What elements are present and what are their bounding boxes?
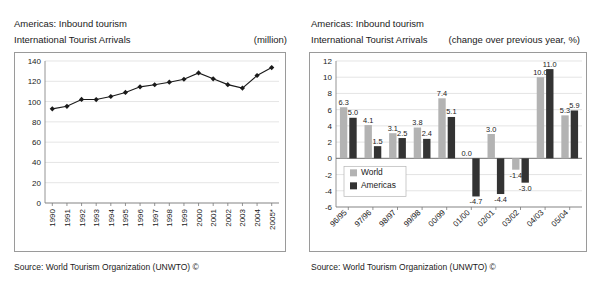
x-axis-tick-label: 2002 (224, 208, 233, 226)
bar-americas (448, 117, 455, 158)
legend-label-world: World (361, 167, 383, 177)
x-axis-tick-label: 1999 (180, 208, 189, 226)
bar-value-label-americas: 11.0 (543, 60, 557, 69)
legend-swatch-world (350, 169, 357, 176)
x-axis-tick-label: 1994 (107, 208, 116, 226)
x-axis-tick-label: 2003 (238, 208, 247, 226)
x-axis-tick-label: 02/01 (476, 208, 497, 229)
left-chart-source: Source: World Tourism Organization (UNWT… (14, 262, 199, 272)
right-chart-unit: (change over previous year, %) (449, 34, 580, 45)
bar-americas (497, 158, 504, 194)
x-axis-tick-label: 04/03 (525, 208, 546, 229)
bar-world (365, 125, 372, 158)
bar-world (488, 134, 495, 158)
right-chart-subtitle: International Tourist Arrivals (311, 34, 428, 45)
x-axis-tick-label: 03/02 (500, 208, 521, 229)
bar-americas (522, 158, 529, 182)
right-chart-source: Source: World Tourism Organization (UNWT… (311, 262, 496, 272)
y-axis-tick-label: 40 (32, 158, 41, 167)
data-point-marker (137, 84, 142, 89)
data-point-marker (225, 82, 230, 87)
bar-world (537, 77, 544, 158)
bar-value-label-world: 0.0 (461, 149, 471, 158)
x-axis-tick-label: 1990 (48, 208, 57, 226)
data-point-marker (152, 82, 157, 87)
bar-world (340, 107, 347, 158)
bar-value-label-world: 10.0 (533, 68, 547, 77)
bar-value-label-americas: -4.4 (494, 195, 507, 204)
y-axis-tick-label: -2 (325, 171, 333, 180)
bar-world (561, 115, 568, 158)
bar-americas (349, 118, 356, 159)
x-axis-tick-label: 00/99 (427, 208, 448, 229)
bar-value-label-americas: -3.0 (519, 184, 532, 193)
bar-americas (399, 138, 406, 158)
y-axis-tick-label: 12 (323, 57, 332, 66)
bar-value-label-americas: 5.0 (348, 108, 358, 117)
x-axis-tick-label: 98/97 (377, 208, 398, 229)
x-axis-tick-label: 1992 (78, 208, 87, 226)
right-chart-title: Americas: Inbound tourism (311, 18, 584, 29)
bar-chart-svg: -6-4-20246810126.35.096/954.11.597/963.1… (310, 53, 586, 251)
x-axis-tick-label: 97/96 (353, 208, 374, 229)
x-axis-tick-label: 2005* (268, 209, 277, 230)
data-point-marker (211, 76, 216, 81)
data-series-line (52, 68, 271, 109)
bar-value-label-world: 4.1 (363, 116, 373, 125)
y-axis-tick-label: 80 (32, 118, 41, 127)
left-chart-panel: Americas: Inbound tourism International … (0, 0, 297, 287)
bar-value-label-americas: 2.4 (422, 129, 432, 138)
data-point-marker (64, 104, 69, 109)
bar-americas (546, 69, 553, 158)
left-chart-plot-area: 0204060801001201401990199119921993199419… (14, 52, 286, 252)
y-axis-tick-label: 10 (323, 73, 332, 82)
y-axis-tick-label: 140 (28, 57, 42, 66)
bar-value-label-world: -1.4 (509, 171, 522, 180)
bar-value-label-world: 3.0 (486, 125, 496, 134)
y-axis-tick-label: -4 (325, 187, 333, 196)
y-axis-tick-label: 60 (32, 138, 41, 147)
y-axis-tick-label: 2 (328, 138, 333, 147)
left-chart-subtitle: International Tourist Arrivals (14, 34, 131, 45)
x-axis-tick-label: 1998 (165, 208, 174, 226)
right-chart-plot-area: -6-4-20246810126.35.096/954.11.597/963.1… (309, 52, 587, 252)
x-axis-tick-label: 1991 (63, 208, 72, 226)
bar-value-label-world: 6.3 (338, 98, 348, 107)
bar-value-label-americas: -4.7 (470, 197, 483, 206)
y-axis-tick-label: 120 (28, 77, 42, 86)
data-point-marker (123, 90, 128, 95)
line-chart-svg: 0204060801001201401990199119921993199419… (15, 53, 285, 251)
bar-world (512, 158, 519, 169)
bar-americas (423, 139, 430, 158)
bar-value-label-americas: 5.1 (446, 107, 456, 116)
x-axis-tick-label: 01/00 (451, 208, 472, 229)
bar-value-label-americas: 1.5 (372, 137, 382, 146)
bar-americas (571, 110, 578, 158)
bar-value-label-americas: 5.9 (569, 101, 579, 110)
legend-swatch-americas (350, 182, 357, 189)
left-chart-title: Americas: Inbound tourism (14, 18, 287, 29)
x-axis-tick-label: 2001 (209, 208, 218, 226)
y-axis-tick-label: 0 (37, 199, 42, 208)
figure-container: Americas: Inbound tourism International … (0, 0, 594, 287)
x-axis-tick-label: 1997 (151, 208, 160, 226)
bar-americas (472, 158, 479, 196)
x-axis-tick-label: 1995 (121, 208, 130, 226)
bar-americas (374, 146, 381, 158)
data-point-marker (50, 106, 55, 111)
bar-value-label-world: 3.8 (412, 118, 422, 127)
right-chart-panel: Americas: Inbound tourism International … (297, 0, 594, 287)
x-axis-tick-label: 1993 (92, 208, 101, 226)
data-point-marker (167, 80, 172, 85)
bar-value-label-world: 7.4 (437, 89, 447, 98)
data-point-marker (196, 70, 201, 75)
y-axis-tick-label: 4 (328, 122, 333, 131)
bar-world (414, 128, 421, 159)
bar-world (438, 98, 445, 158)
data-point-marker (269, 65, 274, 70)
data-point-marker (108, 94, 113, 99)
x-axis-tick-label: 05/04 (550, 208, 571, 229)
legend-label-americas: Americas (361, 180, 396, 190)
left-chart-unit: (million) (254, 34, 287, 45)
x-axis-tick-label: 99/98 (402, 208, 423, 229)
